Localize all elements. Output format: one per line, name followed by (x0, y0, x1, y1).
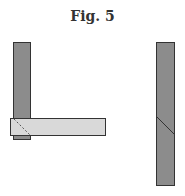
right-vertical-member (157, 43, 175, 186)
left-horizontal-member (11, 119, 106, 136)
left-vertical-member (14, 43, 31, 119)
joint-diagram (0, 0, 185, 196)
